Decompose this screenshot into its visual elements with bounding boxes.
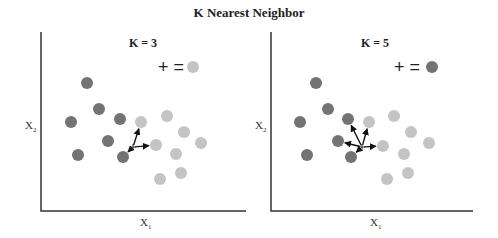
class-a-point <box>93 103 105 115</box>
class-b-point <box>170 148 182 160</box>
class-a-point <box>117 151 129 163</box>
neighbor-arrow <box>364 146 376 147</box>
class-b-point <box>388 110 400 122</box>
neighbor-arrow <box>135 146 149 147</box>
class-b-point <box>175 167 187 179</box>
neighbor-arrow <box>134 129 139 145</box>
x-axis-label: X1 <box>370 216 382 231</box>
class-b-point <box>135 116 147 128</box>
class-a-point <box>114 113 126 125</box>
class-b-point <box>381 173 393 185</box>
class-a-point <box>332 135 344 147</box>
class-b-point <box>161 110 173 122</box>
class-b-point <box>363 116 375 128</box>
panel-title: K = 3 <box>129 36 157 50</box>
panel-title: K = 5 <box>361 36 389 50</box>
class-b-point <box>423 137 435 149</box>
class-b-point <box>405 126 417 138</box>
class-a-point <box>322 103 334 115</box>
neighbor-arrow <box>363 129 368 145</box>
panel-k5: K = 5X2X1+ = <box>255 32 473 231</box>
class-b-point <box>154 173 166 185</box>
y-axis-label: X2 <box>25 119 37 134</box>
legend-dot <box>426 61 438 73</box>
knn-diagram: K = 3X2X1+ =K = 5X2X1+ = <box>0 0 498 238</box>
legend-dot <box>187 61 199 73</box>
x-axis-label: X1 <box>140 216 152 231</box>
y-axis-label: X2 <box>255 119 267 134</box>
class-a-point <box>294 116 306 128</box>
class-b-point <box>402 167 414 179</box>
class-a-point <box>345 151 357 163</box>
class-b-point <box>398 148 410 160</box>
neighbor-arrow <box>128 148 132 152</box>
class-a-point <box>72 149 84 161</box>
class-a-point <box>81 77 93 89</box>
class-a-point <box>310 77 322 89</box>
class-a-point <box>301 149 313 161</box>
class-b-point <box>150 139 162 151</box>
panel-k3: K = 3X2X1+ = <box>25 32 246 231</box>
legend-text: + = <box>394 57 420 77</box>
legend-text: + = <box>158 57 184 77</box>
neighbor-arrow <box>356 148 360 152</box>
class-b-point <box>178 126 190 138</box>
class-a-point <box>342 113 354 125</box>
class-a-point <box>65 116 77 128</box>
class-b-point <box>377 140 389 152</box>
class-a-point <box>102 135 114 147</box>
class-b-point <box>195 137 207 149</box>
neighbor-arrow <box>345 143 360 147</box>
neighbor-arrow <box>351 125 361 145</box>
